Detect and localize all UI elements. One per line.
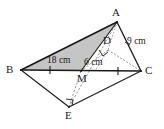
- geometry-canvas: [0, 0, 164, 129]
- measurement-label-am: 6 cm: [84, 57, 103, 67]
- vertex-label-A: A: [112, 7, 120, 18]
- vertex-label-M: M: [77, 73, 87, 84]
- vertex-label-D: D: [103, 35, 111, 46]
- vertex-dot-A: [116, 21, 118, 23]
- edge-BE: [21, 70, 69, 107]
- vertex-label-C: C: [145, 65, 152, 76]
- geometry-figure: A B C D M E 18 cm 6 cm 9 cm: [0, 0, 164, 129]
- measurement-label-bm: 18 cm: [47, 55, 70, 65]
- measurement-label-ac: 9 cm: [127, 36, 146, 46]
- vertex-dot-B: [20, 69, 22, 71]
- vertex-dot-C: [140, 70, 142, 72]
- vertex-dot-E: [68, 106, 70, 108]
- edge-AC: [117, 22, 141, 71]
- vertex-label-B: B: [6, 64, 13, 75]
- vertex-label-E: E: [65, 110, 72, 121]
